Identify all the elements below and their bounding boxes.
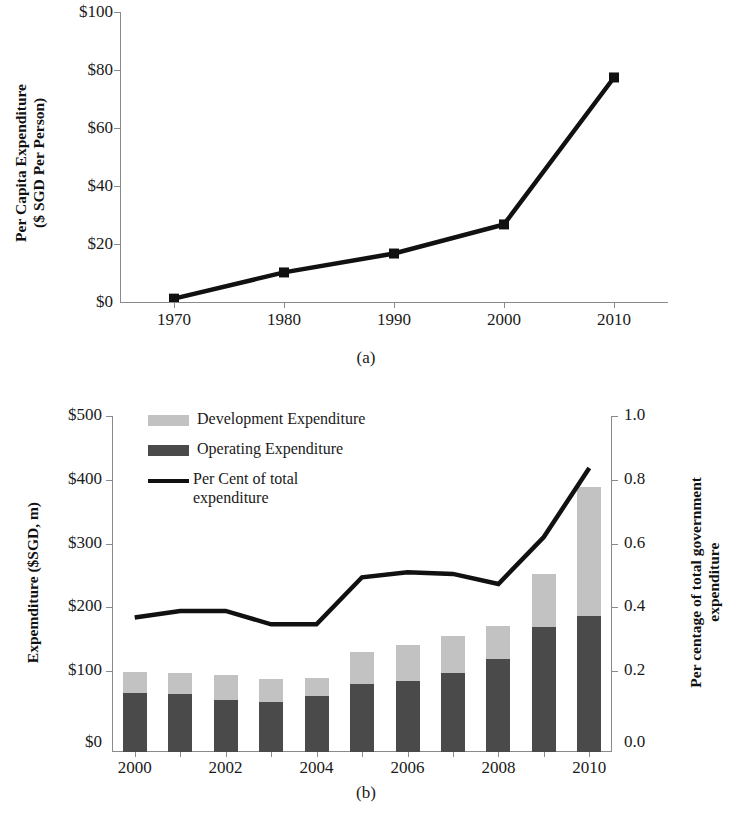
panel-b-xlabel: 2000 [85, 758, 185, 778]
panel-b-xtick [408, 752, 409, 757]
panel-a-ytick-40: $40 [58, 176, 113, 196]
panel-b-xtick [498, 752, 499, 757]
legend-item-development: Development Expenditure [148, 410, 365, 429]
panel-a-y-axis-title: Per Capita Expenditure ($ SGD Per Person… [6, 18, 54, 308]
panel-a-ytick-80: $80 [58, 60, 113, 80]
panel-b-ytick-200: $200 [40, 596, 102, 616]
swatch-development-icon [148, 415, 189, 426]
panel-b-xtick [317, 752, 318, 757]
panel-a-caption: (a) [0, 348, 732, 368]
panel-b-tick-r-0-2 [612, 671, 618, 672]
panel-b-ytick-r-0-8: 0.8 [624, 469, 684, 489]
panel-b-left-y-axis-title: Expemditure ($SGD, m) [16, 410, 50, 755]
panel-a-tick-40 [114, 186, 120, 187]
panel-a-series-line [120, 12, 668, 303]
panel-b-ytick-r-0-4: 0.4 [624, 596, 684, 616]
panel-b-xlabel: 2002 [176, 758, 276, 778]
panel-a-xlabel-1970: 1970 [124, 310, 224, 330]
panel-b-xtick [226, 752, 227, 757]
legend-item-percent: Per Cent of total expenditure [148, 470, 365, 508]
panel-a-y-axis-title-line1: Per Capita Expenditure [12, 84, 29, 242]
panel-b-xlabel: 2008 [448, 758, 548, 778]
panel-b-tick-r-0-8 [612, 480, 618, 481]
panel-b-xtick [135, 752, 136, 757]
panel-b-xlabel: 2004 [267, 758, 367, 778]
panel-a-xtick-1990 [394, 303, 395, 308]
panel-a-tick-100 [114, 12, 120, 13]
panel-b-left-y-axis-title-text: Expemditure ($SGD, m) [24, 502, 41, 663]
panel-b-ytick-r-0-6: 0.6 [624, 533, 684, 553]
panel-b-xtick [271, 752, 272, 757]
legend-label-development: Development Expenditure [197, 410, 365, 429]
panel-a-tick-20 [114, 244, 120, 245]
panel-a-line-chart: Per Capita Expenditure ($ SGD Per Person… [0, 0, 732, 390]
panel-b-xlabel: 2010 [539, 758, 639, 778]
legend-item-operating: Operating Expenditure [148, 440, 365, 459]
legend-label-operating: Operating Expenditure [197, 440, 343, 459]
panel-b-right-y-axis-title-line1: Per centage of total government [687, 477, 704, 688]
panel-a-xtick-2000 [504, 303, 505, 308]
panel-a-xtick-2010 [614, 303, 615, 308]
panel-b-ytick-300: $300 [40, 533, 102, 553]
panel-a-ytick-20: $20 [58, 234, 113, 254]
panel-a-ytick-100: $100 [58, 2, 113, 22]
panel-a-tick-60 [114, 128, 120, 129]
panel-b-ytick-r-0-0: 0.0 [624, 732, 684, 752]
legend-label-percent-line1: Per Cent of total [193, 470, 298, 487]
panel-a-xlabel-1980: 1980 [234, 310, 334, 330]
panel-b-xtick [589, 752, 590, 757]
panel-a-tick-80 [114, 70, 120, 71]
panel-b-xlabel: 2006 [358, 758, 458, 778]
panel-a-xlabel-2010: 2010 [564, 310, 664, 330]
panel-a-plot-area [120, 12, 668, 303]
panel-b-xtick [453, 752, 454, 757]
panel-b-right-y-axis-title-line2: expenditure [705, 543, 722, 622]
panel-b-ytick-r-0-2: 0.2 [624, 660, 684, 680]
panel-b-ytick-r-1-0: 1.0 [624, 405, 684, 425]
panel-b-combo-chart: Expemditure ($SGD, m) $500 $400 $300 $20… [0, 390, 732, 817]
swatch-operating-icon [148, 445, 189, 456]
legend-label-percent-line2: expenditure [193, 489, 269, 506]
panel-b-ytick-100: $100 [40, 660, 102, 680]
panel-b-ytick-500: $500 [40, 405, 102, 425]
legend-label-percent: Per Cent of total expenditure [193, 470, 298, 508]
panel-a-xlabel-1990: 1990 [344, 310, 444, 330]
panel-a-xtick-1980 [284, 303, 285, 308]
panel-b-xtick [544, 752, 545, 757]
panel-a-xtick-1970 [174, 303, 175, 308]
panel-b-ytick-400: $400 [40, 469, 102, 489]
panel-a-left-spine [120, 12, 121, 303]
line-percent-icon [148, 479, 189, 483]
panel-b-tick-r-0-6 [612, 544, 618, 545]
panel-a-ytick-60: $60 [58, 118, 113, 138]
panel-a-ytick-0: $0 [58, 292, 113, 312]
panel-b-xtick [362, 752, 363, 757]
panel-b-caption: (b) [0, 783, 732, 803]
panel-b-ytick-0: $0 [40, 732, 102, 752]
panel-a-xlabel-2000: 2000 [454, 310, 554, 330]
panel-b-xtick [180, 752, 181, 757]
panel-a-y-axis-title-line2: ($ SGD Per Person) [30, 98, 47, 228]
panel-b-legend: Development Expenditure Operating Expend… [148, 410, 365, 519]
panel-b-tick-r-1-0 [612, 416, 618, 417]
panel-b-tick-r-0-4 [612, 607, 618, 608]
panel-b-right-y-axis-title: Per centage of total government expendit… [680, 410, 730, 755]
